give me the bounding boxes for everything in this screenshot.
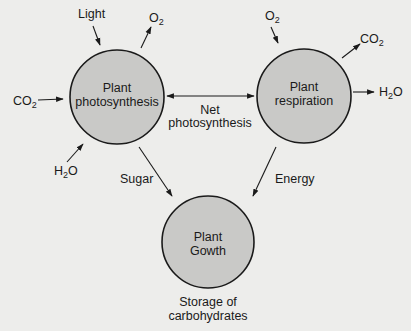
label-energy: Energy	[275, 172, 315, 186]
label-o2-in-resp: O2	[265, 9, 280, 25]
arrow-respiration-to-co2	[342, 44, 360, 58]
arrow-photosynthesis-to-o2	[141, 27, 151, 48]
node-plant-growth: Plant Gowth	[162, 196, 254, 288]
node-label-line2: photosynthesis	[75, 95, 158, 109]
label-co2-out-resp: CO2	[360, 32, 384, 48]
node-label-line1: Plant	[194, 230, 223, 244]
arrow-h2o-to-photosynthesis	[67, 144, 83, 162]
label-light: Light	[78, 7, 106, 21]
label-storage-line1: Storage of	[179, 295, 237, 309]
label-h2o-in: H2O	[54, 164, 78, 180]
arrow-light-to-photosynthesis	[93, 26, 100, 45]
label-co2-in: CO2	[13, 94, 37, 110]
arrow-co2-to-photosynthesis	[38, 99, 63, 100]
label-storage-line2: carbohydrates	[168, 309, 247, 323]
node-label-line1: Plant	[290, 80, 319, 94]
arrow-o2-to-respiration	[271, 27, 278, 43]
node-label-line2: respiration	[275, 94, 333, 108]
node-plant-respiration: Plant respiration	[257, 49, 351, 143]
node-plant-photosynthesis: Plant photosynthesis	[70, 50, 164, 144]
label-net-line2: photosynthesis	[168, 116, 251, 130]
label-h2o-out-resp: H2O	[379, 85, 403, 101]
label-o2-out: O2	[149, 11, 164, 27]
node-label-line2: Gowth	[190, 244, 226, 258]
arrow-energy-to-growth	[253, 147, 276, 196]
label-net-line1: Net	[200, 103, 220, 117]
label-sugar: Sugar	[120, 172, 153, 186]
node-label-line1: Plant	[103, 81, 132, 95]
plant-processes-diagram: Plant photosynthesis Plant respiration P…	[0, 0, 411, 331]
